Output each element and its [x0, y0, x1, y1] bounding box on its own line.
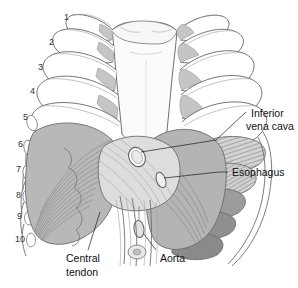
costal-head-10	[27, 233, 36, 247]
vertebral-foramen	[133, 249, 141, 255]
rib-number-1: 1	[64, 12, 69, 22]
label-inferior-vena-cava-line1: Inferior	[251, 107, 284, 119]
thorax-diaphragm-illustration: Inferior vena cava Esophagus Aorta Centr…	[0, 0, 298, 288]
label-esophagus-text: Esophagus	[232, 166, 285, 178]
rib-number-8: 8	[16, 190, 21, 200]
label-aorta-text: Aorta	[160, 252, 185, 264]
rib-number-4: 4	[30, 86, 35, 96]
rib-number-7: 7	[16, 164, 21, 174]
label-esophagus: Esophagus	[232, 166, 285, 178]
rib-number-10: 10	[15, 234, 25, 244]
rib-number-9: 9	[17, 211, 22, 221]
label-inferior-vena-cava-line2: vena cava	[246, 120, 294, 132]
rib-number-2: 2	[49, 37, 54, 47]
anatomy-figure: Inferior vena cava Esophagus Aorta Centr…	[0, 0, 298, 288]
label-aorta: Aorta	[160, 252, 185, 264]
rib-number-5: 5	[23, 112, 28, 122]
label-central-tendon-line2: tendon	[66, 266, 98, 278]
rib-number-6: 6	[18, 139, 23, 149]
label-central-tendon-line1: Central	[66, 252, 100, 264]
rib-number-3: 3	[38, 62, 43, 72]
